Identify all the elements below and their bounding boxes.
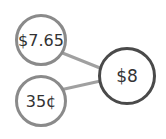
node-label: $7.65 bbox=[18, 31, 64, 50]
node-label: 35¢ bbox=[26, 92, 57, 111]
node-part-top: $7.65 bbox=[15, 14, 67, 66]
node-label: $8 bbox=[116, 66, 138, 86]
node-whole: $8 bbox=[98, 47, 156, 105]
node-part-bottom: 35¢ bbox=[15, 75, 67, 127]
